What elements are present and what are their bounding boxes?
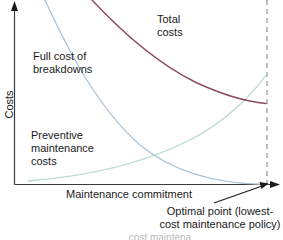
y-axis-label: Costs xyxy=(3,83,16,127)
annotation-optimal-point: Optimal point (lowest- cost maintenance … xyxy=(157,205,283,231)
annotation-preventive-maintenance-costs: Preventive maintenance costs xyxy=(31,129,94,168)
annotation-total-costs: Total costs xyxy=(157,13,183,39)
x-axis xyxy=(15,181,281,188)
optimal-point-leader-arrow xyxy=(214,182,269,203)
chart-canvas xyxy=(0,0,283,240)
cropped-bottom-text: cost maintena xyxy=(60,231,260,240)
annotation-full-cost-of-breakdowns: Full cost of breakdowns xyxy=(33,50,92,76)
maintenance-cost-chart: Total costs Full cost of breakdowns Prev… xyxy=(0,0,283,240)
x-axis-label: Maintenance commitment xyxy=(66,188,192,201)
